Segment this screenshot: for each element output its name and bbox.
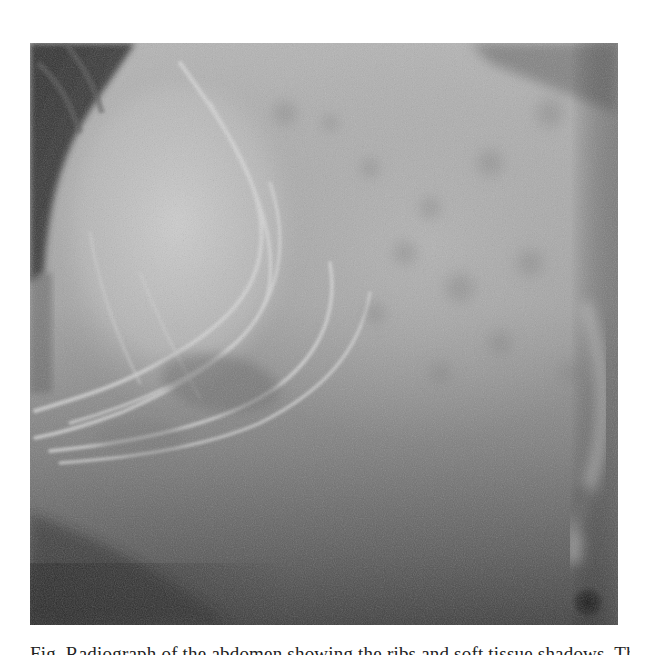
figure-caption-clipped: Fig. Radiograph of the abdomen showing t… bbox=[30, 641, 630, 655]
radiograph-figure bbox=[30, 43, 618, 625]
document-page: Fig. Radiograph of the abdomen showing t… bbox=[0, 0, 646, 655]
radiograph-image bbox=[30, 43, 618, 625]
